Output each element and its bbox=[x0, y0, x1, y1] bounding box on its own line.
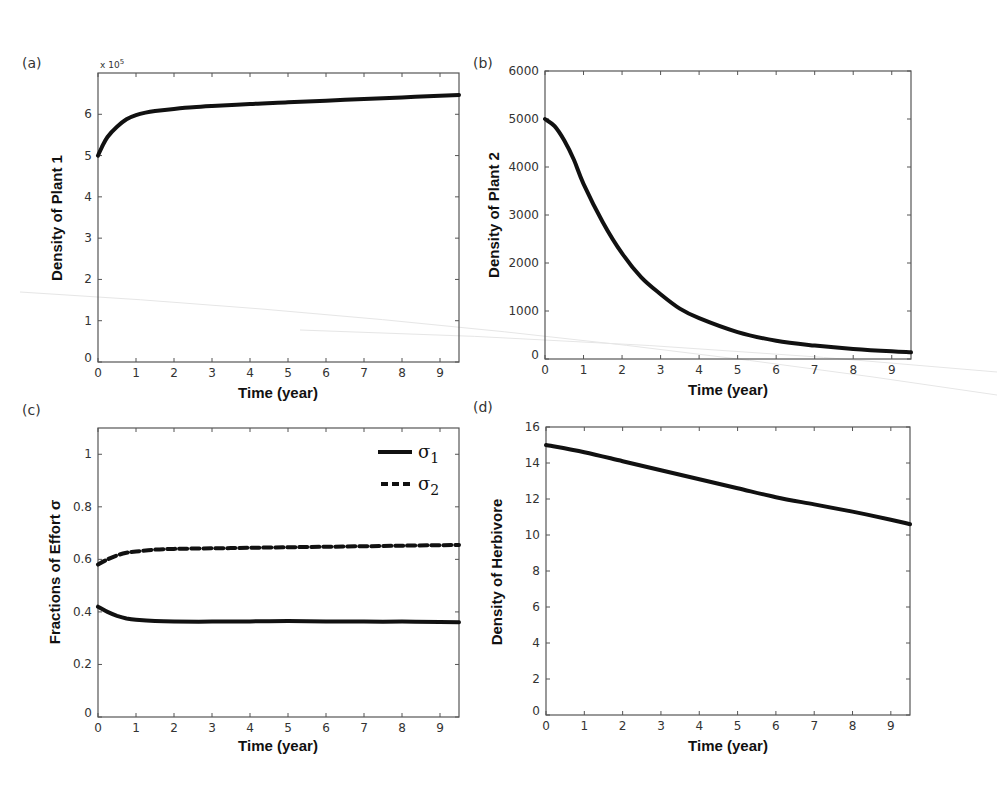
x-tick-label: 0 bbox=[94, 366, 102, 380]
x-tick-label: 7 bbox=[360, 721, 368, 735]
x-tick-label: 8 bbox=[849, 363, 857, 377]
x-tick-label: 7 bbox=[360, 366, 368, 380]
x-tick-label: 0 bbox=[94, 721, 102, 735]
y-tick-label: 3 bbox=[84, 231, 92, 245]
x-tick-label: 9 bbox=[888, 363, 896, 377]
x-axis-title-c: Time (year) bbox=[238, 737, 318, 754]
x-tick-label: 5 bbox=[284, 366, 292, 380]
x-tick-label: 8 bbox=[398, 366, 406, 380]
y-tick-label: 2000 bbox=[508, 256, 539, 270]
y-axis-title-b: Density of Plant 2 bbox=[485, 152, 502, 278]
x-tick-label: 3 bbox=[208, 366, 216, 380]
y-tick-label: 1000 bbox=[508, 304, 539, 318]
y-tick-label: 5 bbox=[84, 149, 92, 163]
series-line-σ2 bbox=[98, 545, 459, 565]
y-tick-label: 1 bbox=[84, 314, 92, 328]
panel-label-a: (a) bbox=[22, 55, 42, 71]
x-tick-label: 5 bbox=[734, 363, 742, 377]
y-axis-title-c: Fractions of Effort σ bbox=[46, 500, 63, 644]
y-tick-label: 6 bbox=[532, 600, 540, 614]
plot-frame bbox=[98, 73, 459, 362]
plot-frame bbox=[546, 427, 910, 715]
y-tick-label: 8 bbox=[532, 564, 540, 578]
legend-label-sigma1: σ1 bbox=[418, 441, 439, 466]
y-tick-label: 0.4 bbox=[73, 605, 92, 619]
x-tick-label: 4 bbox=[246, 721, 254, 735]
axes-c: 012345678900.20.40.60.81 bbox=[73, 428, 459, 735]
x-tick-label: 3 bbox=[208, 721, 216, 735]
axes-b: 01234567890100020003000400050006000 bbox=[508, 64, 911, 377]
legend-label-sigma2: σ2 bbox=[418, 473, 439, 498]
x-tick-label: 2 bbox=[619, 719, 627, 733]
x-tick-label: 1 bbox=[132, 721, 140, 735]
x-tick-label: 9 bbox=[887, 719, 895, 733]
x-tick-label: 3 bbox=[657, 719, 665, 733]
panel-label-b: (b) bbox=[473, 55, 493, 71]
x-tick-label: 6 bbox=[772, 363, 780, 377]
y-tick-label: 2 bbox=[532, 672, 540, 686]
panel-label-d: (d) bbox=[473, 399, 493, 415]
x-tick-label: 8 bbox=[398, 721, 406, 735]
panel-d-herbivore-density: (d) 01234567890246810121416 Density of H… bbox=[473, 399, 910, 754]
series-line-plant-1 bbox=[98, 95, 459, 156]
y-axis-title-a: Density of Plant 1 bbox=[48, 155, 65, 281]
x-tick-label: 5 bbox=[284, 721, 292, 735]
y-tick-label: 0 bbox=[84, 706, 92, 720]
x-tick-label: 7 bbox=[810, 719, 818, 733]
x-tick-label: 9 bbox=[436, 721, 444, 735]
y-tick-label: 0.8 bbox=[73, 500, 92, 514]
x-tick-label: 2 bbox=[618, 363, 626, 377]
panel-c-effort-fractions: (c) 012345678900.20.40.60.81 Fractions o… bbox=[22, 402, 459, 754]
x-tick-label: 4 bbox=[246, 366, 254, 380]
x-tick-label: 2 bbox=[170, 366, 178, 380]
plot-frame bbox=[98, 428, 459, 717]
x-tick-label: 3 bbox=[657, 363, 665, 377]
x-tick-label: 9 bbox=[436, 366, 444, 380]
y-tick-label: 0.2 bbox=[73, 657, 92, 671]
y-axis-title-d: Density of Herbivore bbox=[488, 499, 505, 646]
y-tick-label: 12 bbox=[525, 492, 540, 506]
y-tick-label: 14 bbox=[525, 456, 540, 470]
y-tick-label: 3000 bbox=[508, 208, 539, 222]
x-tick-label: 6 bbox=[772, 719, 780, 733]
y-tick-label: 0 bbox=[84, 351, 92, 365]
x-axis-title-b: Time (year) bbox=[688, 381, 768, 398]
y-tick-label: 6 bbox=[84, 107, 92, 121]
y-tick-label: 4 bbox=[532, 636, 540, 650]
y-tick-label: 4000 bbox=[508, 160, 539, 174]
y-tick-label: 2 bbox=[84, 272, 92, 286]
x-tick-label: 7 bbox=[811, 363, 819, 377]
x-tick-label: 5 bbox=[734, 719, 742, 733]
x-tick-label: 8 bbox=[849, 719, 857, 733]
y-tick-label: 0.6 bbox=[73, 552, 92, 566]
x-tick-label: 2 bbox=[170, 721, 178, 735]
x-tick-label: 1 bbox=[580, 363, 588, 377]
y-tick-label: 4 bbox=[84, 190, 92, 204]
series-line-σ1 bbox=[98, 607, 459, 623]
y-tick-label: 0 bbox=[532, 704, 540, 718]
axes-a: 01234567890123456 bbox=[84, 73, 459, 380]
panel-label-c: (c) bbox=[22, 402, 41, 418]
x-tick-label: 1 bbox=[580, 719, 588, 733]
y-tick-label: 16 bbox=[525, 420, 540, 434]
series-line-plant-2 bbox=[545, 119, 911, 352]
y-tick-label: 1 bbox=[84, 447, 92, 461]
y-tick-label: 10 bbox=[525, 528, 540, 542]
x-tick-label: 4 bbox=[695, 719, 703, 733]
axes-d: 01234567890246810121416 bbox=[525, 420, 910, 733]
y-tick-label: 5000 bbox=[508, 112, 539, 126]
figure: (a) x 105 01234567890123456 Density of P… bbox=[0, 0, 997, 800]
x-tick-label: 1 bbox=[132, 366, 140, 380]
x-tick-label: 6 bbox=[322, 366, 330, 380]
legend-c: σ1 σ2 bbox=[378, 441, 439, 498]
x-tick-label: 0 bbox=[541, 363, 549, 377]
x-tick-label: 4 bbox=[695, 363, 703, 377]
x-tick-label: 6 bbox=[322, 721, 330, 735]
x-axis-title-d: Time (year) bbox=[688, 737, 768, 754]
x-tick-label: 0 bbox=[542, 719, 550, 733]
y-multiplier-label: x 105 bbox=[100, 58, 124, 70]
panel-b-plant2-density: (b) 01234567890100020003000400050006000 … bbox=[473, 55, 911, 398]
x-axis-title-a: Time (year) bbox=[238, 384, 318, 401]
series-line-herbivore bbox=[546, 445, 910, 524]
panel-a-plant1-density: (a) x 105 01234567890123456 Density of P… bbox=[22, 55, 459, 401]
